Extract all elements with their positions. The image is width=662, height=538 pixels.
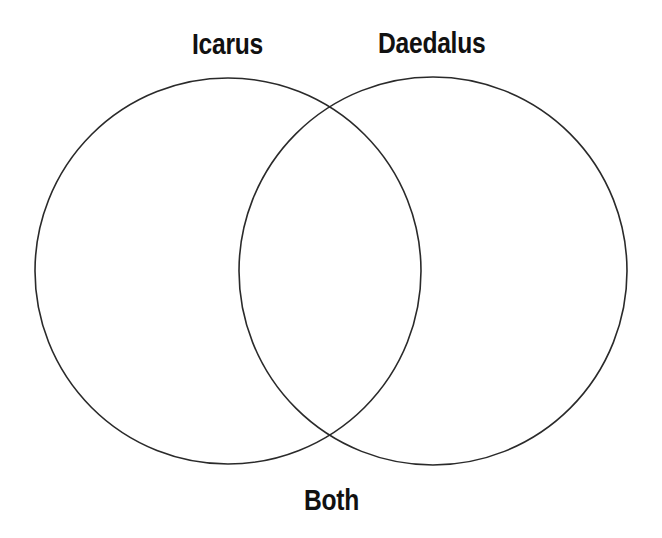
icarus-label: Icarus (192, 29, 263, 59)
daedalus-label: Daedalus (378, 28, 485, 58)
icarus-circle (35, 78, 421, 464)
venn-circles (0, 0, 662, 538)
venn-diagram: Icarus Daedalus Both (0, 0, 662, 538)
daedalus-circle (239, 77, 627, 465)
both-label: Both (304, 485, 359, 515)
